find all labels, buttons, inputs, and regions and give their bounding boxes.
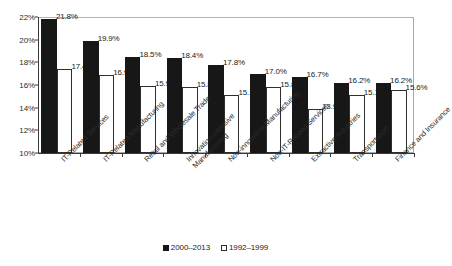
x-axis-tick-mark xyxy=(289,153,290,157)
x-axis-tick-mark xyxy=(80,153,81,157)
bar-value-label: 16.7% xyxy=(307,70,329,79)
bar-2000-2013 xyxy=(41,19,57,153)
legend-label: 1992–1999 xyxy=(229,243,268,252)
x-axis-tick-mark xyxy=(330,153,331,157)
legend-item[interactable]: 2000–2013 xyxy=(163,243,210,252)
bar-value-label: 21.8% xyxy=(56,12,78,21)
x-axis-tick-mark xyxy=(414,153,415,157)
bar-value-label: 18.5% xyxy=(139,50,161,59)
bar-1992-1999 xyxy=(57,69,73,153)
bar-value-label: 17.0% xyxy=(265,67,287,76)
bar-1992-1999 xyxy=(391,90,407,153)
x-axis-tick-mark xyxy=(163,153,164,157)
bar-group: 21.8%17.4% xyxy=(38,17,80,153)
open-square-icon xyxy=(221,245,227,251)
bar-value-label: 15.6% xyxy=(406,83,428,92)
bar-value-label: 19.9% xyxy=(98,34,120,43)
chart-legend: 2000–20131992–1999 xyxy=(0,243,431,252)
legend-label: 2000–2013 xyxy=(171,243,210,252)
filled-square-icon xyxy=(163,245,169,251)
x-axis-tick-mark xyxy=(247,153,248,157)
bar-value-label: 18.4% xyxy=(181,51,203,60)
x-axis-tick-mark xyxy=(372,153,373,157)
bar-value-label: 16.2% xyxy=(348,76,370,85)
bar-value-label: 17.8% xyxy=(223,58,245,67)
legend-item[interactable]: 1992–1999 xyxy=(221,243,268,252)
x-axis-tick-mark xyxy=(122,153,123,157)
